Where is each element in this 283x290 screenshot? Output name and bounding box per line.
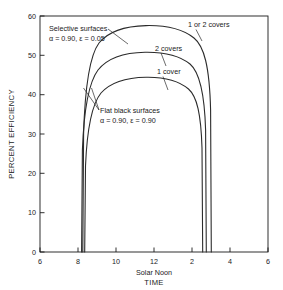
x-tick-label-6am: 6: [38, 257, 42, 266]
x-axis-ticks: [40, 248, 268, 253]
annotation-selective-line2: α = 0.90, ε = 0.05: [49, 34, 105, 43]
y-tick-label-50: 50: [28, 51, 36, 60]
y-tick-label-10: 10: [28, 208, 36, 217]
curve-one-cover: [85, 77, 203, 252]
x-axis-title: TIME: [144, 278, 164, 287]
leader-selective-surfaces: [108, 29, 128, 44]
x-tick-label-12: 12: [150, 257, 158, 266]
leader-one-or-two-covers: [196, 30, 202, 42]
solar-noon-label: Solar Noon: [136, 268, 172, 277]
x-tick-label-2pm: 2: [190, 257, 194, 266]
annotation-flat-black-line2: α = 0.90, ε = 0.90: [100, 116, 156, 125]
x-tick-label-10am: 10: [112, 257, 120, 266]
series-label-one-or-two-covers: 1 or 2 covers: [188, 20, 230, 29]
leader-two-covers: [161, 53, 166, 66]
efficiency-chart-figure: 0 10 20 30 40 50 60 PERCENT EFFICIENCY 6…: [0, 0, 283, 290]
plot-frame: [40, 16, 268, 252]
annotation-flat-black-line1: Flat black surfaces: [100, 106, 160, 115]
y-axis-ticks: [40, 16, 45, 252]
x-tick-label-8am: 8: [76, 257, 80, 266]
y-tick-label-40: 40: [28, 90, 36, 99]
series-label-one-cover: 1 cover: [157, 67, 181, 76]
y-tick-label-30: 30: [28, 130, 36, 139]
y-tick-label-0: 0: [32, 248, 36, 257]
x-tick-label-6pm: 6: [266, 257, 270, 266]
curve-two-covers: [82, 52, 207, 252]
x-tick-label-4pm: 4: [228, 257, 232, 266]
y-axis-title: PERCENT EFFICIENCY: [7, 89, 16, 179]
annotation-selective-line1: Selective surfaces: [49, 24, 108, 33]
y-tick-label-20: 20: [28, 169, 36, 178]
leader-flat-black-to-one-cover: [92, 88, 100, 110]
series-label-two-covers: 2 covers: [155, 44, 183, 53]
curve-one-or-two-covers: [83, 26, 212, 252]
y-tick-label-60: 60: [28, 12, 36, 21]
chart-canvas: 0 10 20 30 40 50 60 PERCENT EFFICIENCY 6…: [0, 0, 283, 290]
